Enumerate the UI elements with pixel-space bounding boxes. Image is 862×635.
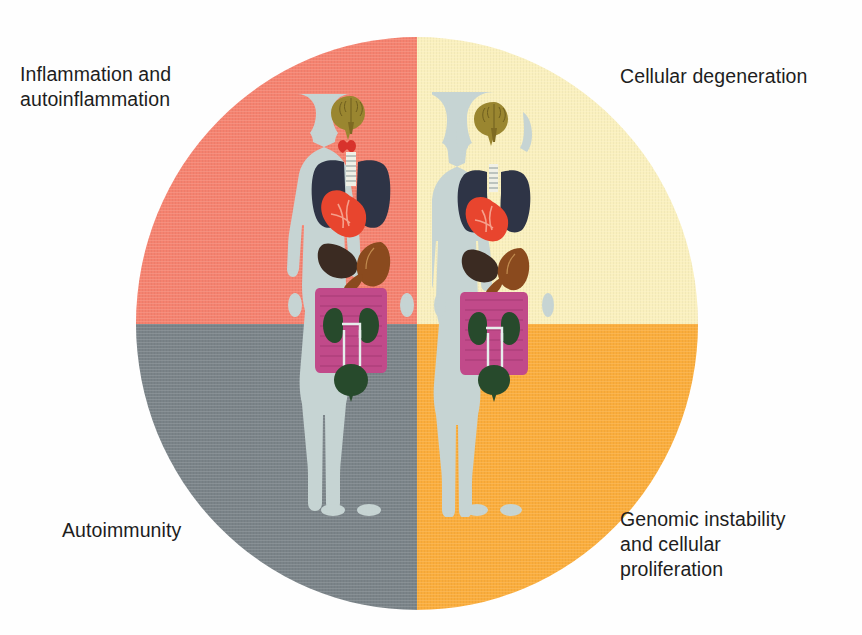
label-autoimmunity: Autoimmunity	[62, 518, 181, 543]
label-genomic-instability: Genomic instability and cellular prolife…	[620, 507, 786, 582]
label-cellular-degeneration: Cellular degeneration	[620, 64, 807, 89]
male-figure	[286, 92, 416, 517]
bladder-organ	[478, 365, 510, 402]
thyroid-organ	[338, 140, 356, 153]
brain-organ	[474, 102, 508, 146]
female-figure	[432, 92, 556, 517]
trachea-organ	[346, 152, 356, 186]
trachea-organ	[489, 164, 498, 192]
label-inflammation: Inflammation and autoinflammation	[20, 62, 171, 112]
figure-canvas: Inflammation and autoinflammation Cellul…	[0, 0, 862, 635]
quadrant-circle	[136, 37, 698, 610]
